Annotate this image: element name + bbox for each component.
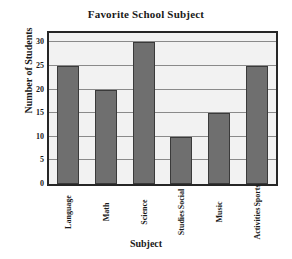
bar-social-studies[interactable] xyxy=(170,137,192,184)
x-tick-label-social-studies: SocialStudies xyxy=(163,186,201,238)
y-tick-label-15: 15 xyxy=(26,109,44,117)
y-axis-tick-labels: 051015202530 xyxy=(26,31,44,186)
gridline-20 xyxy=(49,89,276,90)
gridline-15 xyxy=(49,112,276,113)
x-tick-label-language: Language xyxy=(49,186,87,238)
x-tick-label-line: Sports xyxy=(253,184,262,206)
chart-title: Favorite School Subject xyxy=(0,8,292,20)
y-tick-label-30: 30 xyxy=(26,38,44,46)
gridline-30 xyxy=(49,41,276,42)
bar-sports-activities[interactable] xyxy=(246,66,268,184)
x-tick-label-music: Music xyxy=(200,186,238,238)
x-axis-title: Subject xyxy=(0,238,292,249)
x-axis-tick-labels: LanguageMathScienceSocialStudiesMusicSpo… xyxy=(47,186,278,238)
y-tick-label-25: 25 xyxy=(26,62,44,70)
y-tick-label-5: 5 xyxy=(26,156,44,164)
bar-science[interactable] xyxy=(133,42,155,184)
x-tick-label-line: Music xyxy=(215,202,224,223)
x-tick-label-line: Language xyxy=(63,195,72,229)
bar-language[interactable] xyxy=(57,66,79,184)
y-tick-label-20: 20 xyxy=(26,86,44,94)
gridline-5 xyxy=(49,159,276,160)
plot-inner xyxy=(49,33,276,184)
x-tick-label-line: Studies xyxy=(177,210,186,235)
y-tick-label-10: 10 xyxy=(26,133,44,141)
bar-math[interactable] xyxy=(95,90,117,184)
y-tick-label-0: 0 xyxy=(26,180,44,188)
gridline-10 xyxy=(49,136,276,137)
x-tick-label-line: Math xyxy=(101,203,110,222)
x-tick-label-math: Math xyxy=(87,186,125,238)
bar-music[interactable] xyxy=(208,113,230,184)
x-tick-label-line: Activities xyxy=(253,208,262,240)
x-tick-label-line: Social xyxy=(177,189,186,209)
plot-area xyxy=(47,31,278,186)
x-tick-label-science: Science xyxy=(125,186,163,238)
x-tick-label-line: Science xyxy=(139,199,148,224)
gridline-25 xyxy=(49,65,276,66)
x-tick-label-sports-activities: SportsActivities xyxy=(238,186,276,238)
